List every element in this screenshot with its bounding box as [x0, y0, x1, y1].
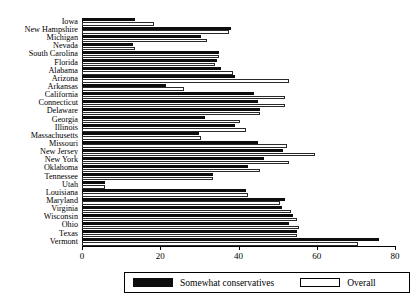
bar-overall — [82, 169, 260, 172]
bar-somewhat-conservatives — [82, 51, 219, 54]
plot-area: IowaNew HampshireMichiganNevadaSouth Car… — [82, 18, 395, 246]
bar-somewhat-conservatives — [82, 157, 264, 160]
bar-somewhat-conservatives — [82, 189, 246, 192]
bar-somewhat-conservatives — [82, 165, 248, 168]
bar-somewhat-conservatives — [82, 84, 166, 87]
bar-overall — [82, 161, 289, 164]
bar-somewhat-conservatives — [82, 230, 297, 233]
bar-overall — [82, 112, 260, 115]
x-tick-mark — [395, 246, 396, 250]
chart-row: Utah — [82, 181, 395, 189]
chart-row: New Jersey — [82, 148, 395, 156]
bar-overall — [82, 226, 299, 229]
x-tick-label-60: 60 — [312, 251, 321, 261]
bar-somewhat-conservatives — [82, 124, 235, 127]
bar-somewhat-conservatives — [82, 238, 379, 241]
legend-label-overall: Overall — [347, 278, 376, 288]
bar-overall — [82, 234, 297, 237]
chart-row: Alabama — [82, 67, 395, 75]
bar-overall — [82, 128, 246, 131]
chart-row: New York — [82, 156, 395, 164]
bar-overall — [82, 30, 229, 33]
chart-legend: Somewhat conservatives Overall — [124, 272, 410, 293]
chart-row: Michigan — [82, 34, 395, 42]
bar-overall — [82, 47, 135, 50]
bar-somewhat-conservatives — [82, 198, 285, 201]
bar-overall — [82, 96, 285, 99]
x-tick-mark — [82, 246, 83, 250]
bar-somewhat-conservatives — [82, 132, 199, 135]
chart-row: Oklahoma — [82, 165, 395, 173]
bar-overall — [82, 120, 240, 123]
bar-somewhat-conservatives — [82, 59, 217, 62]
legend-swatch-light — [300, 278, 340, 287]
chart-row: Maryland — [82, 197, 395, 205]
horizontal-bar-chart: IowaNew HampshireMichiganNevadaSouth Car… — [0, 0, 414, 299]
bar-overall — [82, 144, 287, 147]
bar-overall — [82, 177, 213, 180]
chart-row: Louisiana — [82, 189, 395, 197]
chart-row: Florida — [82, 59, 395, 67]
bar-overall — [82, 71, 233, 74]
chart-row: Vermont — [82, 238, 395, 246]
legend-swatch-dark — [133, 278, 173, 287]
bar-somewhat-conservatives — [82, 75, 235, 78]
chart-row: Iowa — [82, 18, 395, 26]
chart-row: California — [82, 91, 395, 99]
bar-overall — [82, 210, 291, 213]
chart-row: Texas — [82, 230, 395, 238]
chart-row: Missouri — [82, 140, 395, 148]
chart-row: South Carolina — [82, 51, 395, 59]
bar-overall — [82, 185, 105, 188]
bar-overall — [82, 55, 219, 58]
bar-overall — [82, 104, 285, 107]
chart-row: Nevada — [82, 42, 395, 50]
chart-row: Tennessee — [82, 173, 395, 181]
bar-overall — [82, 63, 215, 66]
bar-somewhat-conservatives — [82, 100, 258, 103]
bar-overall — [82, 87, 184, 90]
chart-row: Virginia — [82, 205, 395, 213]
bar-overall — [82, 79, 289, 82]
bar-somewhat-conservatives — [82, 222, 289, 225]
bar-overall — [82, 136, 201, 139]
bar-somewhat-conservatives — [82, 67, 221, 70]
x-tick-label-0: 0 — [80, 251, 85, 261]
legend-item-somewhat-conservatives: Somewhat conservatives — [125, 278, 274, 288]
bar-somewhat-conservatives — [82, 27, 231, 30]
legend-label-somewhat-conservatives: Somewhat conservatives — [180, 278, 274, 288]
chart-row: Massachusetts — [82, 132, 395, 140]
bar-overall — [82, 22, 154, 25]
bar-overall — [82, 193, 248, 196]
bar-somewhat-conservatives — [82, 92, 254, 95]
x-tick-label-80: 80 — [391, 251, 400, 261]
bar-somewhat-conservatives — [82, 173, 213, 176]
chart-row: Arkansas — [82, 83, 395, 91]
x-tick-label-40: 40 — [234, 251, 243, 261]
x-tick-mark — [239, 246, 240, 250]
x-tick-label-20: 20 — [156, 251, 165, 261]
bar-somewhat-conservatives — [82, 35, 201, 38]
bar-overall — [82, 201, 280, 204]
chart-row: Ohio — [82, 222, 395, 230]
bar-overall — [82, 218, 297, 221]
bar-somewhat-conservatives — [82, 18, 135, 21]
x-tick-mark — [317, 246, 318, 250]
bar-somewhat-conservatives — [82, 141, 258, 144]
x-tick-mark — [160, 246, 161, 250]
bar-overall — [82, 242, 358, 245]
chart-row: Georgia — [82, 116, 395, 124]
chart-row: Connecticut — [82, 99, 395, 107]
chart-row: Delaware — [82, 108, 395, 116]
y-axis-label-vermont: Vermont — [50, 238, 78, 246]
bar-somewhat-conservatives — [82, 116, 205, 119]
chart-row: Illinois — [82, 124, 395, 132]
bar-somewhat-conservatives — [82, 149, 283, 152]
chart-row: Wisconsin — [82, 213, 395, 221]
bar-somewhat-conservatives — [82, 206, 282, 209]
bar-overall — [82, 39, 207, 42]
bar-overall — [82, 153, 315, 156]
bar-somewhat-conservatives — [82, 43, 133, 46]
bar-somewhat-conservatives — [82, 108, 260, 111]
legend-item-overall: Overall — [274, 278, 376, 288]
